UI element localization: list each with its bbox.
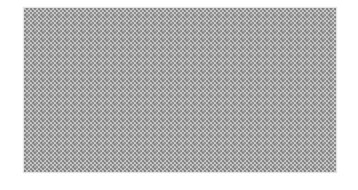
dither-pattern-rectangle: Grey checkerboard dither pattern rectang… (24, 8, 336, 172)
canvas: Grey checkerboard dither pattern rectang… (0, 0, 358, 190)
